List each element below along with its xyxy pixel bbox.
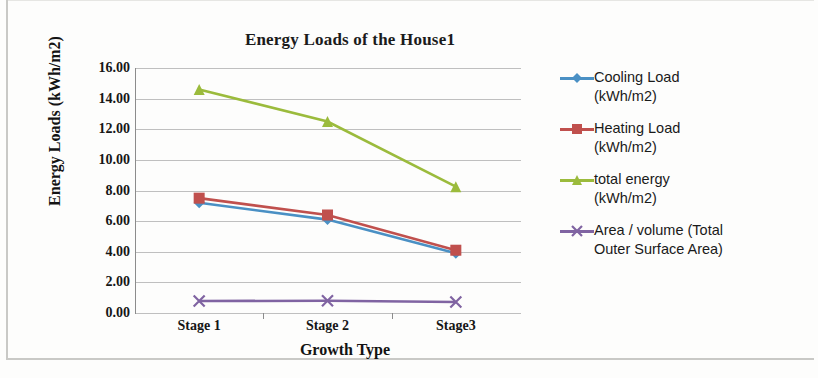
legend-label: Area / volume (TotalOuter Surface Area) (594, 221, 723, 259)
legend-label-line: Area / volume (Total (594, 221, 723, 240)
legend-entry[interactable]: Area / volume (TotalOuter Surface Area) (560, 221, 810, 259)
series-triangle (194, 84, 462, 192)
series-diamond (194, 197, 462, 259)
legend-label: Cooling Load(kWh/m2) (594, 68, 679, 106)
legend-marker-icon (571, 123, 583, 135)
chart-legend: Cooling Load(kWh/m2)Heating Load(kWh/m2)… (560, 68, 810, 272)
legend-label-line: (kWh/m2) (594, 87, 679, 106)
data-point-marker (450, 245, 461, 256)
legend-marker-icon (571, 225, 583, 237)
legend-marker-icon (571, 174, 583, 186)
legend-triangle-marker-icon (560, 171, 594, 189)
legend-label: total energy(kWh/m2) (594, 170, 670, 208)
legend-square-marker-icon (560, 120, 594, 138)
line-chart-figure: Energy Loads of the House1 Energy Loads … (0, 0, 818, 356)
legend-label-line: Outer Surface Area) (594, 240, 723, 259)
legend-marker-icon (571, 72, 583, 84)
scanned-page: Energy Loads of the House1 Energy Loads … (0, 0, 818, 378)
x-axis-tick-mark (263, 313, 264, 319)
legend-label-line: Heating Load (594, 119, 680, 138)
legend-entry[interactable]: Heating Load(kWh/m2) (560, 119, 810, 157)
legend-label-line: total energy (594, 170, 670, 189)
legend-label: Heating Load(kWh/m2) (594, 119, 680, 157)
legend-diamond-marker-icon (560, 69, 594, 87)
legend-label-line: Cooling Load (594, 68, 679, 87)
data-point-marker (450, 181, 461, 192)
x-axis-tick-mark (392, 313, 393, 319)
legend-entry[interactable]: total energy(kWh/m2) (560, 170, 810, 208)
data-point-marker (194, 193, 205, 204)
legend-label-line: (kWh/m2) (594, 138, 680, 157)
series-line (199, 89, 456, 186)
legend-label-line: (kWh/m2) (594, 189, 670, 208)
series-x (194, 295, 462, 307)
legend-x-marker-icon (560, 222, 594, 240)
legend-entry[interactable]: Cooling Load(kWh/m2) (560, 68, 810, 106)
data-point-marker (322, 210, 333, 221)
